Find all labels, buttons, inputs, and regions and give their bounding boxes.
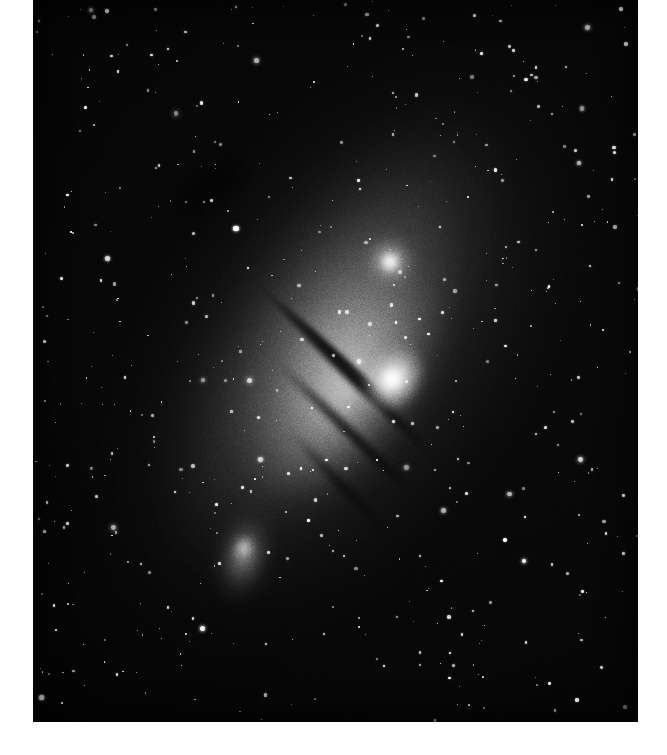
astronomical-photograph-plate — [33, 0, 638, 722]
page-margin-bottom — [0, 722, 667, 755]
page-margin-right — [638, 0, 667, 755]
companion-galaxy-round-core — [378, 251, 402, 273]
page-margin-left — [0, 0, 33, 755]
andromeda-nucleus-core — [378, 368, 404, 390]
photo-page — [0, 0, 667, 755]
night-sky-background — [33, 0, 638, 722]
